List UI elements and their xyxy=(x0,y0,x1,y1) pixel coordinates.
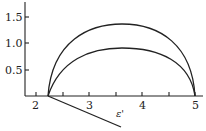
y-tick-label: 0.5 xyxy=(5,64,23,77)
x-axis-label: ε' xyxy=(116,108,124,119)
x-tick-label: 5 xyxy=(192,99,199,112)
x-tick-label: 3 xyxy=(86,99,93,112)
x-tick-label: 2 xyxy=(32,99,39,112)
tangent-line xyxy=(48,96,121,127)
inner-arc xyxy=(48,48,195,96)
chart: 0.5 1.0 1.5 2 3 4 5 ε' xyxy=(0,0,206,131)
y-tick-label: 1.5 xyxy=(5,11,23,24)
y-tick-label: 1.0 xyxy=(5,37,23,50)
x-tick-label: 4 xyxy=(139,99,146,112)
